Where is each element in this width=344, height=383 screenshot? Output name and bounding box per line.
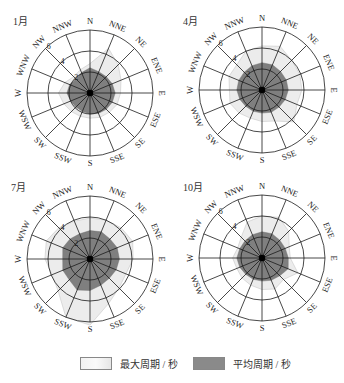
direction-label: S: [260, 155, 265, 165]
direction-label: NNW: [51, 18, 74, 35]
month-label-apr: 4月: [183, 13, 198, 28]
ring-value-label: 6: [47, 208, 51, 217]
ring-value-label: 4: [232, 54, 236, 63]
direction-label: NE: [134, 34, 149, 49]
ring-value-label: 6: [219, 207, 223, 216]
chart-panel-apr: NNNENEENEEESESESSESSSWSWWSWWWNWNWNNW246 …: [172, 0, 344, 172]
legend: 最大周期 / 秒 平均周期 / 秒: [0, 348, 344, 378]
direction-label: NNE: [280, 183, 300, 199]
direction-label: WNW: [14, 53, 32, 77]
direction-label: N: [87, 16, 93, 26]
direction-label: E: [329, 255, 339, 260]
direction-label: W: [13, 89, 23, 97]
direction-label: NE: [134, 200, 149, 215]
month-label-jan: 1月: [13, 13, 28, 28]
ring-value-label: 4: [60, 223, 64, 232]
ring-value-label: 2: [74, 73, 78, 82]
direction-label: NW: [30, 199, 47, 216]
direction-label: W: [13, 255, 23, 263]
direction-label: S: [260, 323, 265, 333]
direction-label: WSW: [16, 274, 33, 297]
ring-value-label: 2: [74, 239, 78, 248]
direction-label: WSW: [188, 105, 205, 128]
direction-label: NE: [306, 31, 321, 46]
direction-label: W: [185, 86, 195, 94]
direction-label: NW: [30, 33, 47, 50]
month-label-oct: 10月: [183, 179, 203, 194]
radar-chart-jul: NNNENEENEEESESESSESSSWSWWSWWWNWNWNNW246: [0, 170, 172, 342]
direction-label: E: [157, 256, 167, 261]
direction-label: NNE: [108, 18, 128, 34]
legend-swatch-avg: [193, 357, 225, 370]
ring-value-label: 4: [60, 57, 64, 66]
direction-label: WSW: [16, 108, 33, 131]
direction-label: ENE: [149, 56, 165, 75]
ring-value-label: 6: [47, 42, 51, 51]
radar-chart-oct: NNNENEENEEESESESSESSSWSWWSWWWNWNWNNW246: [172, 170, 344, 342]
center-dot: [259, 87, 265, 93]
direction-label: ENE: [149, 222, 165, 241]
chart-panel-oct: NNNENEENEEESESESSESSSWSWWSWWWNWNWNNW246 …: [172, 170, 344, 342]
center-dot: [87, 256, 93, 262]
month-label-jul: 7月: [11, 179, 26, 194]
direction-label: NE: [306, 199, 321, 214]
legend-item-avg: 平均周期 / 秒: [193, 356, 291, 371]
ring-value-label: 4: [232, 222, 236, 231]
ring-value-label: 2: [246, 70, 250, 79]
legend-item-max: 最大周期 / 秒: [80, 356, 178, 371]
direction-label: NNE: [280, 15, 300, 31]
direction-label: ENE: [321, 221, 337, 240]
direction-label: NW: [202, 30, 219, 47]
direction-label: NNW: [51, 184, 74, 201]
direction-label: E: [329, 87, 339, 92]
direction-label: NNE: [108, 184, 128, 200]
direction-label: NNW: [223, 183, 246, 200]
legend-swatch-max: [80, 357, 112, 370]
direction-label: N: [259, 181, 265, 191]
legend-label-avg: 平均周期 / 秒: [233, 356, 291, 371]
center-dot: [259, 255, 265, 261]
direction-label: S: [88, 324, 93, 334]
direction-label: WSW: [188, 273, 205, 296]
legend-label-max: 最大周期 / 秒: [120, 356, 178, 371]
direction-label: N: [87, 182, 93, 192]
direction-label: E: [157, 90, 167, 95]
direction-label: WNW: [186, 50, 204, 74]
chart-panel-jan: NNNENEENEEESESESSESSSWSWWSWWWNWNWNNW246 …: [0, 0, 172, 172]
direction-label: N: [259, 13, 265, 23]
direction-label: WNW: [186, 218, 204, 242]
chart-panel-jul: NNNENEENEEESESESSESSSWSWWSWWWNWNWNNW246 …: [0, 170, 172, 342]
direction-label: NW: [202, 198, 219, 215]
direction-label: WNW: [14, 219, 32, 243]
direction-label: S: [88, 158, 93, 168]
ring-value-label: 2: [246, 238, 250, 247]
ring-value-label: 6: [219, 39, 223, 48]
direction-label: W: [185, 254, 195, 262]
center-dot: [87, 90, 93, 96]
direction-label: NNW: [223, 15, 246, 32]
direction-label: ENE: [321, 53, 337, 72]
